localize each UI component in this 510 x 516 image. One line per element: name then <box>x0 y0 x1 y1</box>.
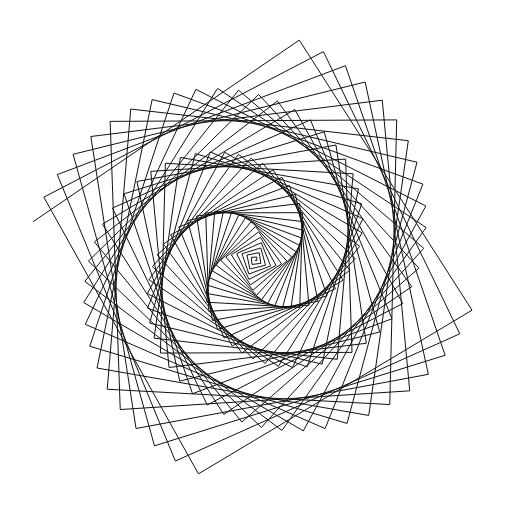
figure-background <box>0 0 510 516</box>
spiral-polygon-figure <box>0 0 510 516</box>
figure-canvas <box>0 0 510 516</box>
